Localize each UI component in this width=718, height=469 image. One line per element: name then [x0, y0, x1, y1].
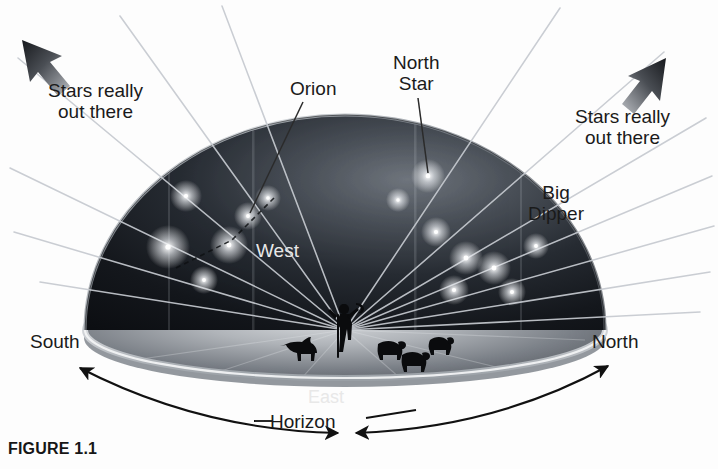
- label-stars-really-out-there-right: Stars really out there: [575, 106, 670, 149]
- label-south: South: [30, 331, 80, 352]
- label-orion: Orion: [290, 78, 336, 99]
- label-big-dipper: Big Dipper: [528, 182, 584, 225]
- label-north: North: [592, 331, 638, 352]
- label-west: West: [256, 240, 299, 261]
- label-north-star: North Star: [393, 52, 439, 95]
- label-horizon: Horizon: [270, 411, 335, 432]
- figure-caption: FIGURE 1.1: [8, 440, 97, 458]
- label-stars-really-out-there-left: Stars really out there: [48, 80, 143, 123]
- celestial-dome-diagram: [0, 0, 718, 469]
- label-east: East: [308, 387, 344, 407]
- figure-root: Stars really out there Stars really out …: [0, 0, 718, 469]
